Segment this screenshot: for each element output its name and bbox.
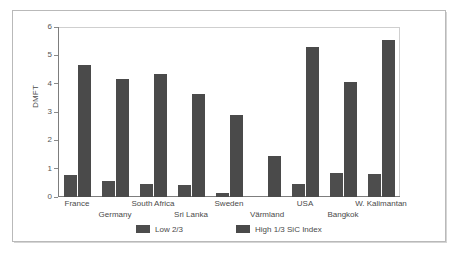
y-tick-mark	[54, 197, 58, 198]
legend-label: High 1/3 SiC Index	[255, 225, 322, 234]
x-axis-label: W. Kalimantan	[336, 199, 426, 208]
bar	[230, 115, 243, 197]
bar	[140, 184, 153, 197]
y-tick-label: 5	[36, 51, 52, 59]
legend: Low 2/3High 1/3 SiC Index	[58, 222, 400, 236]
bar	[368, 174, 381, 197]
y-tick-label: 2	[36, 136, 52, 144]
y-axis-line	[58, 27, 59, 197]
bar	[154, 74, 167, 197]
y-tick-label: 1	[36, 165, 52, 173]
bar	[102, 181, 115, 197]
bar	[306, 47, 319, 197]
bar	[78, 65, 91, 197]
y-tick-label: 6	[36, 23, 52, 31]
y-axis-title: DMFT	[31, 85, 40, 108]
bar	[64, 175, 77, 197]
y-tick-mark	[54, 168, 58, 169]
legend-swatch-icon	[236, 225, 250, 233]
y-tick-label: 4	[36, 80, 52, 88]
y-tick-mark	[54, 140, 58, 141]
bar	[344, 82, 357, 197]
legend-swatch-icon	[136, 225, 150, 233]
y-tick-mark	[54, 112, 58, 113]
bar	[116, 79, 129, 197]
bar	[192, 94, 205, 197]
bar	[330, 173, 343, 197]
bar	[178, 185, 191, 197]
y-tick-mark	[54, 27, 58, 28]
bar	[292, 184, 305, 197]
y-tick-mark	[54, 83, 58, 84]
legend-item: Low 2/3	[136, 222, 183, 236]
x-axis-label: Bangkok	[298, 210, 388, 219]
bar	[382, 40, 395, 197]
figure: DMFT 0123456 FranceGermanySouth AfricaSr…	[0, 0, 462, 257]
bar	[216, 193, 229, 197]
bar	[268, 156, 281, 197]
y-tick-label: 3	[36, 108, 52, 116]
y-tick-mark	[54, 55, 58, 56]
legend-item: High 1/3 SiC Index	[236, 222, 322, 236]
legend-label: Low 2/3	[155, 225, 183, 234]
